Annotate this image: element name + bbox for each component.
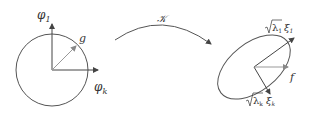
mapping-arrow: 𝒦 (115, 13, 211, 44)
svg-text:ξ1: ξ1 (284, 22, 293, 34)
axis-xi-k (254, 67, 270, 94)
diagram-canvas: φ1 φk g 𝒦 λ1 ξ1 λk ξk f (0, 0, 309, 113)
unit-circle-figure: φ1 φk g (16, 8, 107, 106)
label-phi-k: φk (94, 80, 107, 96)
label-phi-1: φ1 (37, 8, 51, 24)
label-K: 𝒦 (157, 13, 170, 24)
label-sqrt-lambdak-xik: λk ξk (246, 93, 276, 107)
label-g: g (79, 32, 86, 45)
label-f: f (289, 71, 296, 84)
label-sqrt-lambda1-xi1: λ1 ξ1 (265, 20, 293, 34)
svg-text:λ1: λ1 (272, 22, 282, 34)
vector-g (52, 46, 76, 70)
ellipse-figure: λ1 ξ1 λk ξk f (206, 20, 302, 112)
mapping-arc (115, 25, 211, 44)
svg-text:λk: λk (253, 95, 263, 107)
svg-text:ξk: ξk (266, 95, 276, 107)
